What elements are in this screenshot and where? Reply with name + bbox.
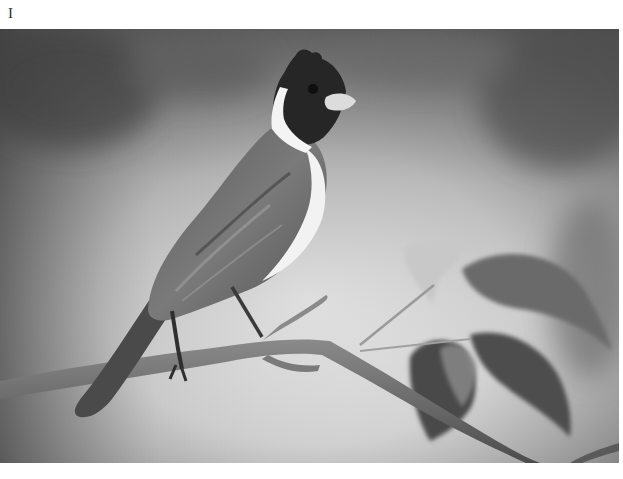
figure-label: I [8, 6, 13, 21]
bird-photograph [0, 29, 619, 463]
bird-eye [308, 84, 318, 94]
bird-photo-illustration [0, 29, 619, 463]
